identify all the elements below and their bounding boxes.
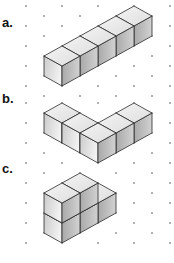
figure-b-cube-l-shape	[44, 103, 152, 163]
grid-dot	[133, 202, 135, 204]
grid-dot	[97, 102, 99, 104]
grid-dot	[169, 242, 171, 244]
grid-dot	[133, 242, 135, 244]
grid-dot	[79, 15, 81, 17]
grid-dot	[61, 162, 63, 164]
grid-dot	[169, 202, 171, 204]
grid-dot	[169, 25, 171, 27]
figure-a-cube-row	[44, 6, 152, 86]
grid-dot	[169, 182, 171, 184]
grid-dot	[25, 222, 27, 224]
grid-dot	[169, 162, 171, 164]
grid-dot	[43, 95, 45, 97]
grid-dot	[151, 212, 153, 214]
grid-dot	[43, 15, 45, 17]
grid-dot	[133, 65, 135, 67]
grid-dot	[151, 172, 153, 174]
grid-dot	[25, 162, 27, 164]
grid-dot	[151, 152, 153, 154]
grid-dot	[25, 242, 27, 244]
isometric-dot-paper	[0, 0, 174, 263]
grid-dot	[133, 222, 135, 224]
grid-dot	[97, 5, 99, 7]
grid-dot	[169, 65, 171, 67]
figure-c-cube-stack	[44, 173, 116, 243]
grid-dot	[151, 75, 153, 77]
grid-dot	[25, 85, 27, 87]
grid-dot	[169, 142, 171, 144]
grid-dot	[25, 142, 27, 144]
grid-dot	[115, 95, 117, 97]
grid-dot	[25, 122, 27, 124]
grid-dot	[169, 5, 171, 7]
grid-dot	[25, 102, 27, 104]
grid-dot	[43, 35, 45, 37]
figure-label-b: b.	[2, 92, 14, 105]
grid-dot	[133, 162, 135, 164]
grid-dot	[115, 75, 117, 77]
grid-dot	[97, 242, 99, 244]
figure-label-a: a.	[2, 16, 13, 29]
grid-dot	[133, 182, 135, 184]
grid-dot	[151, 55, 153, 57]
grid-dot	[25, 65, 27, 67]
grid-dot	[61, 5, 63, 7]
grid-dot	[79, 95, 81, 97]
grid-dot	[133, 85, 135, 87]
figure-label-c: c.	[2, 162, 13, 175]
grid-dot	[151, 232, 153, 234]
grid-dot	[151, 192, 153, 194]
grid-dot	[151, 95, 153, 97]
grid-dot	[169, 102, 171, 104]
grid-dot	[169, 222, 171, 224]
grid-dot	[25, 5, 27, 7]
grid-dot	[43, 152, 45, 154]
grid-dot	[169, 85, 171, 87]
grid-dot	[169, 45, 171, 47]
grid-dot	[115, 232, 117, 234]
grid-dot	[25, 25, 27, 27]
grid-dot	[25, 182, 27, 184]
grid-dot	[169, 122, 171, 124]
grid-dot	[115, 172, 117, 174]
grid-dot	[97, 85, 99, 87]
grid-dot	[61, 25, 63, 27]
grid-dot	[25, 202, 27, 204]
grid-dot	[25, 45, 27, 47]
grid-dot	[43, 172, 45, 174]
